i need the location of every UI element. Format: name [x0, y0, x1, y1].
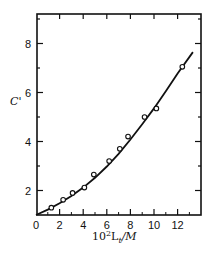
- data-point: [61, 198, 66, 203]
- x-tick-label: 2: [57, 219, 63, 231]
- data-point: [107, 159, 112, 164]
- chart: 0246810122468 C' 102Lt/M: [0, 0, 214, 260]
- fitted-curve: [36, 52, 193, 215]
- y-tick-label: 4: [25, 136, 31, 148]
- data-point: [49, 205, 54, 210]
- data-point: [82, 185, 87, 190]
- y-tick-label: 2: [25, 185, 31, 197]
- tick-labels: 0246810122468: [25, 38, 184, 232]
- y-tick-label: 6: [25, 87, 31, 99]
- data-point: [70, 191, 75, 196]
- y-axis-label: C': [10, 95, 21, 108]
- data-point: [117, 147, 122, 152]
- x-tick-label: 12: [171, 219, 183, 231]
- data-point: [92, 172, 97, 177]
- data-point: [142, 115, 147, 120]
- y-tick-label: 8: [25, 38, 31, 50]
- x-tick-label: 0: [33, 219, 39, 231]
- x-tick-label: 4: [80, 219, 86, 231]
- axis-ticks: [37, 14, 201, 215]
- x-axis-label: 102Lt/M: [92, 229, 137, 245]
- x-tick-label: 10: [148, 219, 160, 231]
- data-point: [126, 134, 131, 139]
- data-points: [49, 64, 185, 209]
- data-point: [154, 106, 159, 111]
- plot-frame: [37, 14, 201, 215]
- data-point: [180, 64, 185, 69]
